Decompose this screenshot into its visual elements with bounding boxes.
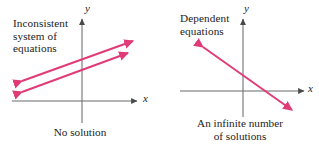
no-solution-caption: No solution bbox=[20, 126, 140, 139]
parallel-line-2 bbox=[22, 53, 128, 92]
inconsistent-system-annotation: Inconsistent system of equations bbox=[13, 17, 68, 55]
y-axis-label: y bbox=[244, 2, 249, 14]
systems-of-equations-figure: Inconsistent system of equations y x No … bbox=[0, 0, 319, 149]
dependent-equations-annotation: Dependent equations bbox=[180, 12, 229, 37]
coincident-line bbox=[203, 47, 292, 110]
y-axis-label: y bbox=[85, 2, 90, 14]
infinite-solutions-caption: An infinite number of solutions bbox=[170, 117, 310, 142]
x-axis-label: x bbox=[143, 92, 148, 104]
x-axis-label: x bbox=[308, 82, 313, 94]
panel-dependent-equations: Dependent equations y x An infinite numb… bbox=[160, 0, 319, 149]
panel-inconsistent-system: Inconsistent system of equations y x No … bbox=[0, 0, 160, 149]
